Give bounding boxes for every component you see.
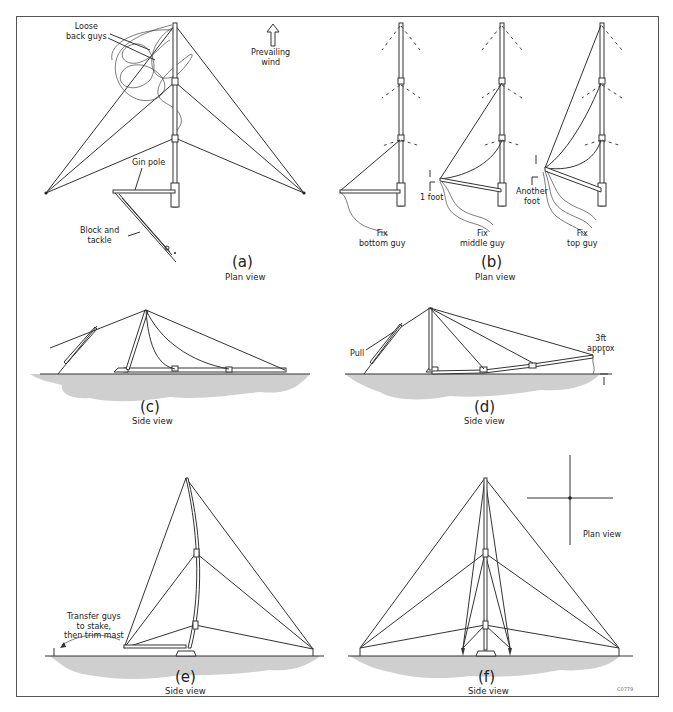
label-block-and-tackle: Block and tackle [80,226,119,245]
label-3ft-approx: 3ft approx [587,334,615,353]
view-label-d: Side view [464,416,505,426]
figure-id-code: C0779 [617,685,633,695]
caption-c: (c) [140,398,160,416]
label-another-foot: Another foot [516,187,548,206]
view-label-a: Plan view [225,272,265,282]
panel-b-drawing [340,23,622,236]
panel-c-drawing [30,310,310,401]
label-fix-bottom-guy: Fix bottom guy [359,229,405,248]
view-label-c: Side view [132,416,173,426]
label-fix-top-guy: Fix top guy [567,229,598,248]
view-label-f: Side view [468,686,509,696]
caption-f: (f) [478,668,495,686]
label-pull: Pull [350,349,364,359]
caption-e: (e) [175,668,196,686]
label-loose-back-guys: Loose back guys [66,22,107,41]
caption-d: (d) [474,398,495,416]
label-gin-pole: Gin pole [132,158,165,168]
mast-erection-diagram [0,0,673,712]
label-transfer-guys: Transfer guys to stake, then trim mast [64,612,124,641]
label-plan-view-inset: Plan view [583,530,621,540]
panel-f-drawing [348,455,633,678]
view-label-e: Side view [165,686,206,696]
label-fix-middle-guy: Fix middle guy [460,229,505,248]
panel-d-drawing [345,308,612,399]
caption-b: (b) [481,253,502,271]
label-one-foot: 1 foot [420,193,443,203]
label-prevailing-wind: Prevailing wind [251,48,290,67]
caption-a: (a) [232,253,253,271]
view-label-b: Plan view [475,272,515,282]
